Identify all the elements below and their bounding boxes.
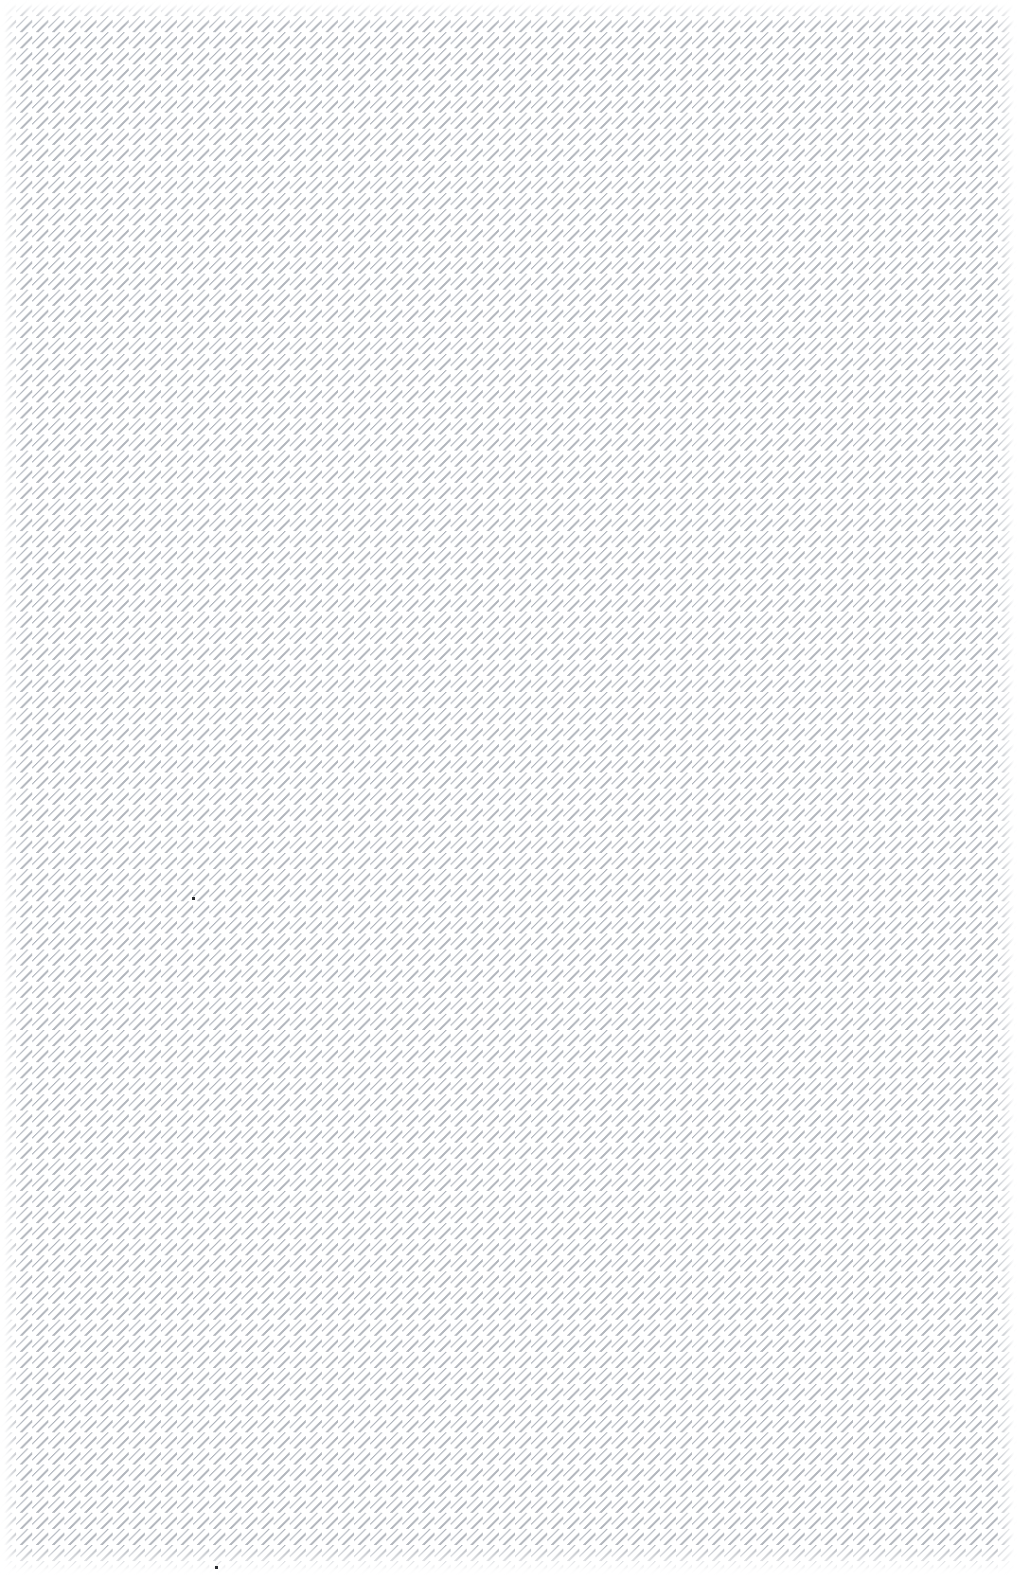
speck-mark [192,897,195,900]
diagonal-stripe-background-overlay [0,0,1018,1575]
speck-mark [215,1566,218,1569]
screen-canvas [0,0,1018,1575]
